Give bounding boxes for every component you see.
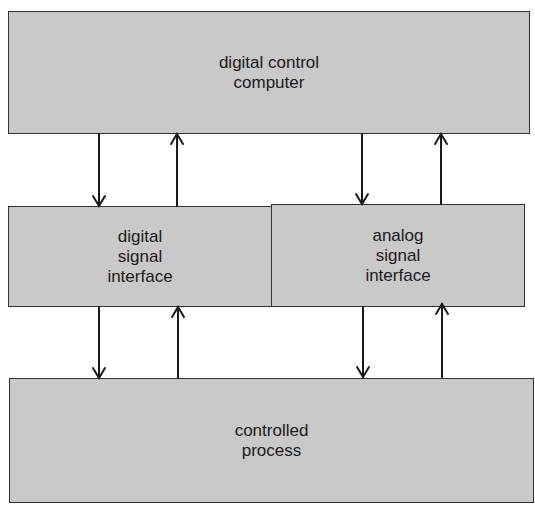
- arrow-analog-interface-to-computer: [435, 134, 447, 204]
- arrow-computer-to-analog-interface: [356, 134, 368, 204]
- arrow-analog-interface-to-process: [357, 307, 369, 377]
- arrow-digital-interface-to-process: [93, 307, 105, 378]
- connector-arrows: [0, 0, 535, 511]
- arrow-process-to-digital-interface: [172, 307, 184, 378]
- arrow-computer-to-digital-interface: [93, 134, 105, 206]
- arrow-process-to-analog-interface: [436, 304, 448, 377]
- arrow-digital-interface-to-computer: [171, 134, 183, 206]
